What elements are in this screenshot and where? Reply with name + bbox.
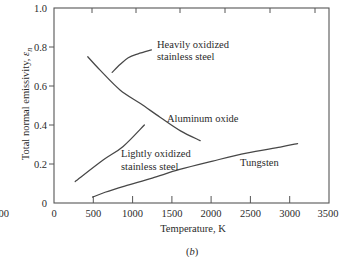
curve-heavily-oxidized-stainless-steel [112,50,151,72]
x-tick-label: 1500 [161,208,182,219]
partial-tick-label: 00 [0,208,9,219]
emissivity-chart: 0 500 1000 1500 2000 2500 3000 3500 00 0… [0,0,341,257]
label-lightly-oxidized-line2: stainless steel [121,161,179,172]
x-tick-label: 1000 [122,208,143,219]
y-tick-label: 0.8 [34,42,47,53]
label-aluminum-oxide: Aluminum oxide [167,113,239,124]
y-tick-label: 1.0 [34,3,47,14]
top-axis-ticks [92,8,315,13]
x-tick-label: 500 [85,208,101,219]
x-tick-label: 2500 [240,208,261,219]
x-axis-label: Temperature, K [160,223,226,234]
curve-aluminum-oxide [88,57,200,141]
y-tick-labels: 0 0.2 0.4 0.6 0.8 1.0 [34,3,48,209]
panel-label-close: ) [195,246,199,257]
x-axis-ticks [93,196,289,203]
label-heavily-oxidized-line1: Heavily oxidized [157,39,230,50]
y-axis-label: Total normal emissivity, εn [20,48,34,160]
panel-label: (b) [186,246,199,257]
x-tick-label: 0 [51,208,56,219]
y-tick-label: 0 [42,198,47,209]
y-axis-label-subscript: n [25,48,34,52]
label-tungsten: Tungsten [240,157,279,168]
x-tick-label: 3500 [318,208,339,219]
plot-frame [54,8,329,203]
curve-labels: Heavily oxidized stainless steel Aluminu… [121,39,279,172]
label-lightly-oxidized-line1: Lightly oxidized [121,148,191,159]
y-axis-label-text: Total normal emissivity, [20,56,31,160]
x-tick-label: 2000 [201,208,222,219]
y-tick-label: 0.4 [34,120,48,131]
x-tick-labels: 0 500 1000 1500 2000 2500 3000 3500 [51,208,338,219]
label-heavily-oxidized-line2: stainless steel [157,51,215,62]
y-tick-label: 0.6 [34,81,47,92]
x-tick-label: 3000 [279,208,300,219]
y-tick-label: 0.2 [34,159,47,170]
y-axis-ticks [49,47,54,164]
